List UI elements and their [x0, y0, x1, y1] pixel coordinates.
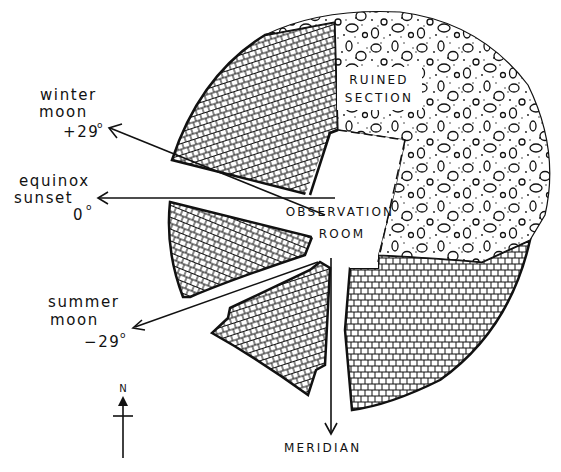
label-winter-moon: winter moon +29 o	[39, 86, 103, 141]
label-equinox-sunset-angle: 0	[73, 206, 84, 224]
ruined-section-label-1: RUINED	[349, 73, 409, 87]
north-arrow-icon: N	[113, 383, 133, 458]
degree-symbol: o	[120, 330, 126, 340]
sightline-equinox-sunset	[98, 192, 335, 204]
tower-plan-diagram: RUINED SECTION OBSERVATION ROOM winter m…	[0, 0, 561, 472]
observation-room-label-1: OBSERVATION	[286, 205, 395, 219]
observation-room-label-2: ROOM	[319, 227, 365, 241]
degree-symbol: o	[97, 120, 103, 130]
label-winter-moon-angle: +29	[63, 123, 99, 141]
compass-north-label: N	[119, 383, 126, 394]
label-summer-moon: summer moon −29 o	[48, 293, 126, 351]
label-summer-moon-angle: −29	[84, 333, 120, 351]
label-meridian: MERIDIAN	[284, 441, 361, 455]
degree-symbol: o	[86, 202, 92, 212]
label-equinox-sunset-line2: sunset	[14, 189, 73, 207]
label-summer-moon-line2: moon	[50, 311, 99, 329]
label-summer-moon-line1: summer	[48, 293, 120, 311]
label-winter-moon-line1: winter	[40, 86, 97, 104]
ruined-section-label-2: SECTION	[345, 91, 413, 105]
label-equinox-sunset: equinox sunset 0 o	[14, 172, 92, 224]
label-winter-moon-line2: moon	[39, 103, 88, 121]
label-equinox-sunset-line1: equinox	[19, 172, 90, 190]
